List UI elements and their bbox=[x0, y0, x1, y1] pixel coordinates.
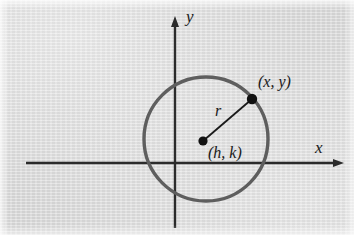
circle-diagram-figure: y x (x, y) (h, k) r bbox=[0, 0, 354, 235]
radius-label: r bbox=[215, 103, 221, 119]
circle-point-dot bbox=[247, 94, 257, 104]
diagram-canvas bbox=[0, 0, 354, 235]
center-point-dot bbox=[198, 136, 207, 145]
x-axis-label: x bbox=[315, 139, 323, 156]
circle-point-label: (x, y) bbox=[258, 74, 291, 90]
center-point-label: (h, k) bbox=[208, 145, 242, 161]
radius-segment bbox=[203, 99, 252, 141]
y-axis-label: y bbox=[186, 8, 194, 25]
